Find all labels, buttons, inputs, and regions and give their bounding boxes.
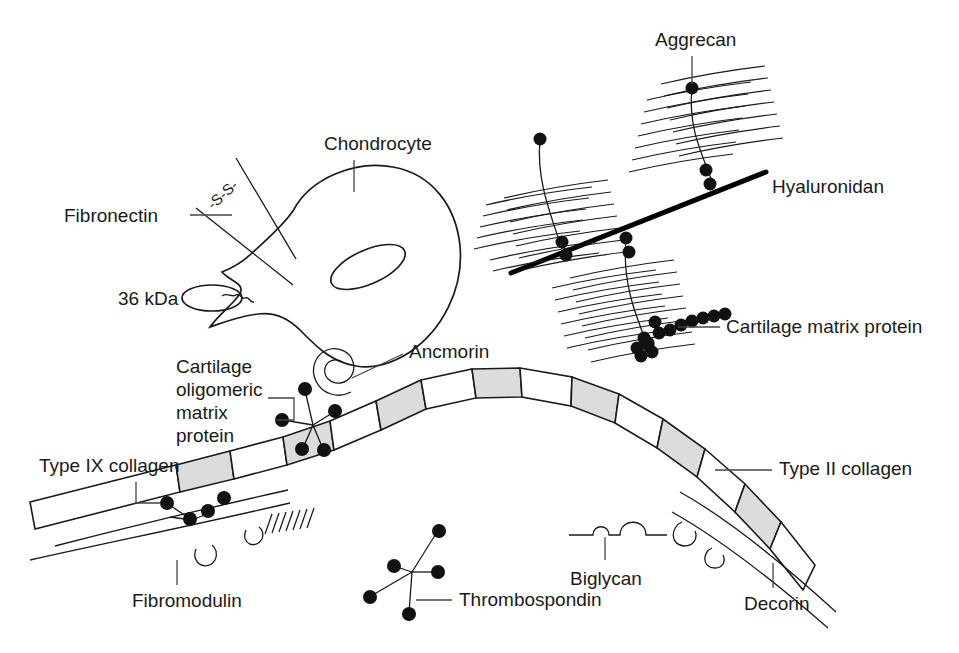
thrombospondin-dot [387, 559, 401, 573]
diagram-canvas: Chondrocyte -S-S- Fibronectin 36 kDa Hya… [0, 0, 959, 653]
thrombospondin-dot [402, 607, 416, 621]
comp-label-line2: oligomeric [176, 379, 263, 400]
fibromodulin-bristles [265, 508, 314, 534]
hyaluronan-backbone [511, 172, 766, 273]
thrombospondin-label: Thrombospondin [459, 589, 602, 610]
chondrocyte-cell [210, 166, 460, 367]
fibronectin-arm-right [236, 158, 296, 259]
hyaluronidan-label: Hyaluronidan [772, 176, 884, 197]
biglycan-group: Biglycan [569, 522, 667, 589]
aggrecan-label: Aggrecan [655, 29, 736, 50]
cartilage-matrix-diagram: Chondrocyte -S-S- Fibronectin 36 kDa Hya… [0, 0, 959, 653]
aggrecan-unit-left [474, 133, 626, 272]
type-ix-dot [183, 512, 197, 526]
fibromodulin-loop [195, 545, 217, 566]
comp-label-line4: protein [176, 425, 234, 446]
type-ix-dot [217, 491, 231, 505]
aggrecan-unit-bottom [552, 232, 695, 363]
comp-label-line3: matrix [176, 402, 228, 423]
cmp-dot [631, 342, 644, 355]
chondrocyte-outline [210, 166, 460, 367]
decorin-loop-upper [673, 522, 696, 546]
type-ix-dot [160, 496, 174, 510]
thrombospondin-dot [363, 590, 377, 604]
fibronectin-group: -S-S- [196, 158, 296, 285]
biglycan-label: Biglycan [570, 568, 642, 589]
comp-label-line1: Cartilage [176, 356, 252, 377]
cmp-dot [708, 310, 721, 323]
fibronectin-label: Fibronectin [64, 205, 158, 226]
ancmorin-spiral [313, 349, 353, 396]
aggrecan-dot-ha-left-a [556, 236, 569, 249]
36-kda-ellipse [182, 285, 242, 311]
fibromodulin-label: Fibromodulin [132, 590, 242, 611]
aggrecan-bristles-top [629, 66, 783, 172]
cmp-dot [697, 312, 710, 325]
comp-dot [298, 382, 312, 396]
type-ii-collagen-fibril: Type II collagen [30, 368, 912, 590]
type-ii-collagen-label: Type II collagen [779, 458, 912, 479]
thrombospondin-arms [371, 532, 437, 613]
biglycan-shape [569, 522, 667, 535]
disulfide-label: -S-S- [204, 176, 241, 212]
fibronectin-arm-left [196, 208, 293, 285]
aggrecan-dot-ha-top-a [700, 164, 713, 177]
chondrocyte-nucleus [325, 235, 412, 299]
aggrecan-dot-top-left [534, 133, 547, 146]
fibromodulin-bristle-loop [245, 527, 263, 545]
thrombospondin-dot [432, 524, 446, 538]
chondrocyte-label: Chondrocyte [324, 133, 432, 154]
aggrecan-unit-top: Aggrecan [629, 29, 783, 191]
type-ix-dot [201, 504, 215, 518]
cartilage-matrix-protein-group: Cartilage matrix protein [631, 308, 923, 363]
aggrecan-dot-ha-bottom-b [623, 246, 636, 259]
aggrecan-dot-ha-left-b [560, 249, 573, 262]
fibromodulin-group: Fibromodulin [132, 508, 314, 611]
comp-dot [317, 443, 331, 457]
thrombospondin-dot [431, 565, 445, 579]
cmp-dot [686, 315, 699, 328]
fibril-segments [30, 368, 815, 590]
cmp-dot [653, 327, 666, 340]
aggrecan-dot-ha-bottom-a [620, 232, 633, 245]
ancmorin-label: Ancmorin [409, 341, 489, 362]
decorin-label: Decorin [744, 593, 809, 614]
cmp-dot [646, 346, 659, 359]
aggrecan-core-left [539, 140, 562, 249]
thrombospondin-group: Thrombospondin [363, 524, 602, 621]
aggrecan-dot-ha-top-b [704, 178, 717, 191]
type-ix-collagen-label: Type IX collagen [39, 455, 179, 476]
aggrecan-bristles-bottom [552, 260, 695, 362]
decorin-loop-lower [705, 548, 724, 568]
36-kda-label: 36 kDa [118, 288, 179, 309]
comp-dot [328, 404, 342, 418]
comp-dot [295, 442, 309, 456]
cartilage-matrix-protein-label: Cartilage matrix protein [726, 316, 922, 337]
